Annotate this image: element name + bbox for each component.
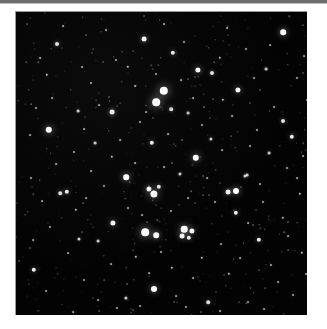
star-field-photograph [15,11,307,315]
page-root [0,0,327,329]
sky-background [16,12,307,315]
top-divider-highlight [0,3,327,4]
